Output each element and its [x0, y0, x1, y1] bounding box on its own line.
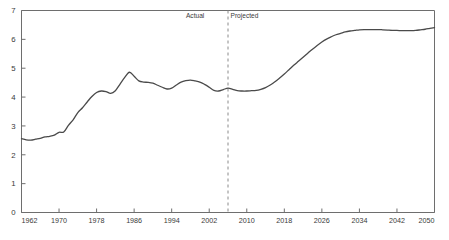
x-tick-label: 2010 — [239, 216, 255, 225]
x-tick-label: 2018 — [276, 216, 292, 225]
y-tick-label: 2 — [11, 151, 15, 160]
x-tick-label: 2026 — [314, 216, 330, 225]
y-tick-label: 7 — [11, 6, 15, 15]
x-tick-label: 2034 — [351, 216, 367, 225]
y-tick-label: 4 — [11, 93, 16, 102]
projected-label: Projected — [230, 12, 258, 20]
x-tick-label: 1962 — [22, 216, 38, 225]
y-tick-label: 5 — [11, 64, 16, 73]
x-tick-label: 1994 — [164, 216, 180, 225]
x-tick-label: 2050 — [419, 216, 435, 225]
y-tick-label: 6 — [11, 35, 15, 44]
y-tick-label: 0 — [11, 208, 16, 217]
y-tick-label: 1 — [11, 179, 15, 188]
y-tick-label: 3 — [11, 122, 15, 131]
x-tick-label: 1978 — [89, 216, 105, 225]
chart-container: 0123456719621970197819861994200220102018… — [0, 0, 449, 240]
x-tick-label: 1986 — [126, 216, 142, 225]
line-chart: 0123456719621970197819861994200220102018… — [0, 0, 449, 240]
x-tick-label: 2042 — [389, 216, 405, 225]
x-tick-label: 2002 — [201, 216, 217, 225]
actual-label: Actual — [186, 12, 205, 19]
x-tick-label: 1970 — [51, 216, 67, 225]
